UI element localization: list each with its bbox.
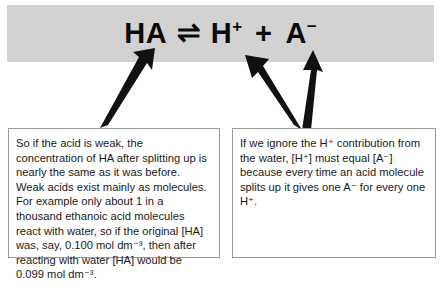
arrow-right-note-to-H-plus (245, 55, 302, 130)
note-box-left: So if the acid is weak, the concentratio… (8, 128, 220, 258)
equilibrium-arrow-icon: ⇌ (177, 19, 201, 47)
note-box-right: If we ignore the H⁺ contribution from th… (232, 128, 436, 258)
equation-product-H-base: H (211, 17, 232, 49)
equation-reactant-HA: HA (124, 19, 167, 48)
equation-band: HA ⇌ H+ + A− (7, 5, 434, 62)
equation-product-H: H+ (211, 19, 242, 48)
equation-product-A-charge: − (307, 17, 317, 36)
note-right-text: If we ignore the H⁺ contribution from th… (233, 129, 435, 214)
equation-product-H-charge: + (232, 17, 242, 36)
equation-product-A-base: A (285, 17, 306, 49)
equation-product-A: A− (285, 19, 316, 48)
arrow-right-note-to-A-minus (302, 50, 323, 130)
figure-canvas: HA ⇌ H+ + A− So if the acid is weak, the… (0, 0, 446, 299)
chemical-equation: HA ⇌ H+ + A− (7, 5, 434, 62)
equation-plus-sign: + (255, 19, 272, 48)
note-left-text: So if the acid is weak, the concentratio… (9, 129, 219, 287)
